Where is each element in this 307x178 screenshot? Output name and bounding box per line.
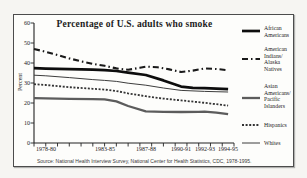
y-tick-label: 30 [17, 80, 30, 87]
x-tick-label: 1987-88 [129, 146, 163, 152]
legend-mark-whites [242, 139, 260, 147]
x-tick-label: 1978-80 [29, 146, 63, 152]
series-line-whites [34, 75, 228, 92]
legend-label-hispanics: Hispanics [264, 122, 292, 129]
y-tick-label: 20 [17, 100, 30, 107]
y-tick-label: 50 [17, 40, 30, 47]
legend-mark-american-indians-alaska-natives [242, 55, 260, 63]
legend-mark-asian-americans-pacific-islanders [242, 94, 260, 102]
legend-label-american-indians-alaska-natives: American Indians/ Alaska Natives [264, 46, 292, 72]
legend-mark-african-americans [242, 27, 260, 35]
legend-mark-hispanics [242, 121, 260, 129]
y-tick-label: 40 [17, 60, 30, 67]
chart-title: Percentage of U.S. adults who smoke [32, 19, 237, 29]
smoking-chart-figure: Percentage of U.S. adults who smoke Perc… [0, 0, 307, 178]
legend-label-asian-americans-pacific-islanders: Asian Americans/ Pacific Islanders [264, 83, 292, 109]
y-tick-label: 60 [17, 20, 30, 27]
legend-label-african-americans: African Americans [264, 25, 292, 38]
source-note: Source: National Health Interview Survey… [37, 158, 267, 164]
chart-frame: Percentage of U.S. adults who smoke Perc… [13, 14, 294, 167]
x-tick-label: 1983-85 [88, 146, 122, 152]
legend-label-whites: Whites [264, 140, 292, 147]
y-tick-label: 10 [17, 120, 30, 127]
series-line-asian-americans-pacific-islanders [34, 98, 228, 114]
x-tick-label: 1994-95 [211, 146, 245, 152]
